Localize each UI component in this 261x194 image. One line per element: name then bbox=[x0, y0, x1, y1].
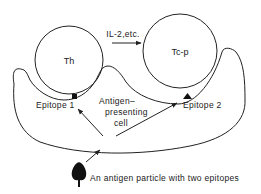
il2-label: IL-2,etc. bbox=[106, 29, 139, 39]
apc-label-line-3: cell bbox=[114, 118, 128, 128]
tcp-cell: Tc-p bbox=[143, 14, 217, 88]
antigen-caption: An antigen particle with two epitopes bbox=[90, 173, 239, 183]
antigen-presentation-diagram: Th Tc-p IL-2,etc. Epitope 1 Epitope 2 An… bbox=[0, 0, 261, 194]
apc-label-line-1: Antigen– bbox=[99, 96, 135, 106]
arrow-to-epitope-1-icon bbox=[78, 109, 103, 136]
antigen-particle-icon bbox=[72, 162, 87, 187]
apc-label-line-2: presenting bbox=[105, 107, 148, 117]
tcp-label: Tc-p bbox=[171, 47, 188, 57]
th-cell: Th bbox=[35, 26, 103, 94]
epitope-1-square-icon bbox=[72, 94, 77, 99]
epitope-2-label: Epitope 2 bbox=[183, 100, 222, 110]
epitope-2-triangle-icon bbox=[183, 93, 192, 99]
epitope-1-label: Epitope 1 bbox=[36, 100, 75, 110]
th-label: Th bbox=[64, 56, 75, 66]
